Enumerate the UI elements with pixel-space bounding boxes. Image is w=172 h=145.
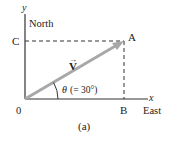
point-b-label: B bbox=[120, 104, 127, 116]
y-axis-label: y bbox=[21, 2, 27, 13]
angle-arc bbox=[54, 83, 58, 100]
x-axis-label: x bbox=[148, 92, 154, 103]
vector-arrow-icon: → bbox=[69, 55, 77, 64]
point-a-label: A bbox=[128, 31, 136, 43]
point-c-label: C bbox=[12, 35, 19, 47]
vector-v-arrowhead-icon bbox=[112, 41, 124, 50]
vector-diagram: y North C A V → θ (= 30°) 0 B x East (a) bbox=[0, 0, 172, 145]
theta-symbol: θ bbox=[62, 84, 67, 95]
figure-caption: (a) bbox=[78, 120, 91, 133]
north-label: North bbox=[29, 18, 54, 29]
origin-label: 0 bbox=[16, 105, 21, 116]
east-label: East bbox=[143, 105, 161, 116]
angle-value-label: (= 30°) bbox=[70, 85, 97, 96]
